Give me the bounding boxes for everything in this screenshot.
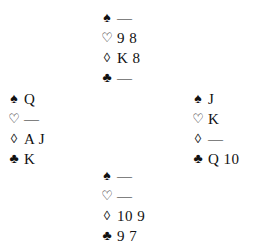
east-spades: ♠ J [190, 89, 240, 109]
east-spades-cards: J [208, 89, 214, 109]
south-spades-cards: — [117, 166, 133, 186]
club-icon: ♣ [99, 68, 115, 88]
north-diamonds-cards: K 8 [117, 48, 141, 68]
east-diamonds-cards: — [208, 129, 224, 149]
west-clubs-cards: K [24, 149, 35, 169]
south-hearts-cards: — [117, 186, 133, 206]
diamond-icon: ◊ [6, 129, 22, 149]
diamond-icon: ◊ [99, 48, 115, 68]
west-diamonds: ◊ A J [6, 129, 45, 149]
spade-icon: ♠ [6, 89, 22, 109]
west-clubs: ♣ K [6, 149, 45, 169]
south-spades: ♠ — [99, 166, 145, 186]
south-diamonds-cards: 10 9 [117, 206, 145, 226]
heart-icon: ♡ [99, 28, 115, 48]
north-clubs: ♣ — [99, 68, 141, 88]
east-clubs-cards: Q 10 [208, 149, 240, 169]
club-icon: ♣ [190, 149, 206, 169]
west-hearts-cards: — [24, 109, 40, 129]
east-hearts: ♡ K [190, 109, 240, 129]
south-hearts: ♡ — [99, 186, 145, 206]
north-spades: ♠ — [99, 8, 141, 28]
east-clubs: ♣ Q 10 [190, 149, 240, 169]
spade-icon: ♠ [99, 8, 115, 28]
west-hand: ♠ Q ♡ — ◊ A J ♣ K [6, 89, 45, 169]
east-hand: ♠ J ♡ K ◊ — ♣ Q 10 [190, 89, 240, 169]
north-clubs-cards: — [117, 68, 133, 88]
south-diamonds: ◊ 10 9 [99, 206, 145, 226]
east-hearts-cards: K [208, 109, 219, 129]
west-spades: ♠ Q [6, 89, 45, 109]
north-hearts: ♡ 9 8 [99, 28, 141, 48]
west-diamonds-cards: A J [24, 129, 45, 149]
diamond-icon: ◊ [99, 206, 115, 226]
north-hand: ♠ — ♡ 9 8 ◊ K 8 ♣ — [99, 8, 141, 88]
diamond-icon: ◊ [190, 129, 206, 149]
south-clubs-cards: 9 7 [117, 226, 137, 245]
south-hand: ♠ — ♡ — ◊ 10 9 ♣ 9 7 [99, 166, 145, 245]
club-icon: ♣ [6, 149, 22, 169]
north-spades-cards: — [117, 8, 133, 28]
spade-icon: ♠ [190, 89, 206, 109]
north-hearts-cards: 9 8 [117, 28, 137, 48]
south-clubs: ♣ 9 7 [99, 226, 145, 245]
heart-icon: ♡ [99, 186, 115, 206]
club-icon: ♣ [99, 226, 115, 245]
heart-icon: ♡ [6, 109, 22, 129]
west-spades-cards: Q [24, 89, 35, 109]
north-diamonds: ◊ K 8 [99, 48, 141, 68]
east-diamonds: ◊ — [190, 129, 240, 149]
west-hearts: ♡ — [6, 109, 45, 129]
spade-icon: ♠ [99, 166, 115, 186]
heart-icon: ♡ [190, 109, 206, 129]
